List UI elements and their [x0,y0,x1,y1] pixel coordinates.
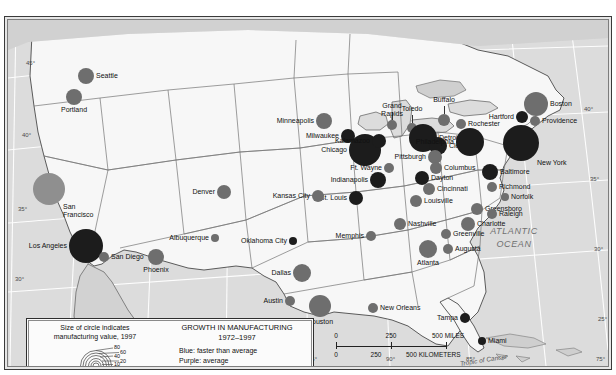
city-symbol[interactable] [370,172,386,188]
latitude-label-right: 35° [590,176,599,182]
city-symbol[interactable] [482,164,498,180]
city-symbol[interactable] [530,116,540,126]
city-symbol[interactable] [217,185,231,199]
city-symbol[interactable] [312,190,324,202]
city-label: SanFrancisco [63,203,93,219]
city-symbol[interactable] [516,111,528,123]
city-symbol[interactable] [501,193,509,201]
city-symbol-layer: SeattlePortlandSanFranciscoLos AngelesSa… [8,20,608,366]
city-label: Oklahoma City [241,237,287,245]
scale-miles-250: 250 [386,332,397,339]
city-symbol[interactable] [394,218,406,230]
scale-tick-250 [391,342,392,349]
label-leader-line [444,106,445,114]
map-screenshot: SeattlePortlandSanFranciscoLos AngelesSa… [0,0,616,375]
city-symbol[interactable] [99,252,109,262]
city-symbol[interactable] [471,203,483,215]
city-label: Cincinnati [437,185,468,193]
nested-circle-diagram: 80 60 40 20 10 5 [63,341,155,367]
city-label: Miami [488,337,507,345]
city-symbol[interactable] [372,134,386,148]
legend-key-blue: Blue: faster than average [179,346,309,356]
city-label: Columbus [444,164,476,172]
city-symbol[interactable] [289,237,297,245]
city-symbol[interactable] [293,264,311,282]
city-symbol[interactable] [368,303,378,313]
svg-text:10: 10 [114,361,120,367]
svg-text:20: 20 [120,358,126,364]
city-symbol[interactable] [148,249,164,265]
city-label: Dallas [272,269,291,277]
city-symbol[interactable] [441,229,451,239]
latitude-label-right: 30° [594,246,603,252]
scale-miles-unit: 500 MILES [432,332,464,339]
latitude-label-right: 25° [598,316,607,322]
longitude-label-bottom: 75° [596,356,605,362]
city-label: Pittsburgh [394,153,426,161]
city-symbol[interactable] [316,113,332,129]
city-symbol[interactable] [478,337,486,345]
city-label: Rochester [468,120,500,128]
city-symbol[interactable] [384,163,394,173]
city-label: Denver [192,188,215,196]
city-symbol[interactable] [423,183,435,195]
city-symbol[interactable] [410,195,422,207]
legend-size-key: Size of circle indicates manufacturing v… [31,323,159,367]
city-symbol[interactable] [78,68,94,84]
scale-km-0: 0 [334,351,338,358]
legend-title: GROWTH IN MANUFACTURING 1972–1997 [165,323,309,342]
city-symbol[interactable] [443,244,453,254]
map-canvas: SeattlePortlandSanFranciscoLos AngelesSa… [7,19,609,367]
city-symbol[interactable] [438,114,450,126]
city-label: Austin [264,297,283,305]
city-symbol[interactable] [69,229,103,263]
legend-key-purple: Purple: average [179,356,309,366]
city-label: Norfolk [511,193,533,201]
city-label: Atlanta [417,259,439,267]
city-symbol[interactable] [456,128,484,156]
legend-size-caption: Size of circle indicates manufacturing v… [31,323,159,341]
city-label: Portland [61,106,87,114]
svg-text:60: 60 [120,349,126,355]
city-symbol[interactable] [309,295,331,317]
city-symbol[interactable] [211,234,219,242]
city-symbol[interactable] [419,240,437,258]
city-symbol[interactable] [349,191,363,205]
city-label: Boston [550,100,572,108]
city-label: Tampa [437,314,458,322]
city-symbol[interactable] [503,125,539,161]
city-label: San Diego [111,253,144,261]
city-symbol[interactable] [66,89,82,105]
atlantic-ocean-label: ATLANTIC OCEAN [490,225,538,251]
scale-km-unit: 500 KILOMETERS [406,351,461,358]
latitude-label-left: 30° [15,276,24,282]
city-symbol[interactable] [461,217,475,231]
latitude-label-left: 35° [18,206,27,212]
legend-title-line2: 1972–1997 [165,333,309,343]
city-symbol[interactable] [456,119,466,129]
city-label: Providence [542,117,577,125]
city-symbol[interactable] [366,231,376,241]
city-symbol[interactable] [387,120,397,130]
city-label: New York [537,159,567,167]
city-label: Greenville [453,230,485,238]
city-symbol[interactable] [430,162,442,174]
city-label: GrandRapids [381,102,403,118]
city-label: Phoenix [143,266,168,274]
city-label: Toledo [402,105,423,113]
ocean-label-line2: OCEAN [490,238,538,251]
city-symbol[interactable] [487,182,497,192]
city-symbol[interactable] [33,173,65,205]
map-scale-bar: 0 250 500 MILES 0 250 500 KILOMETERS [328,330,476,367]
legend-size-caption-line2: manufacturing value, 1997 [31,332,159,341]
city-symbol[interactable] [285,296,295,306]
city-symbol[interactable] [524,92,548,116]
city-symbol[interactable] [487,209,497,219]
scale-km-250: 250 [371,351,382,358]
city-label: Dayton [431,174,453,182]
city-symbol[interactable] [460,313,470,323]
city-label: Kalamazoo [335,137,370,145]
city-label: Kansas City [273,192,310,200]
city-label: Louisville [424,197,453,205]
city-label: Minneapolis [277,117,314,125]
